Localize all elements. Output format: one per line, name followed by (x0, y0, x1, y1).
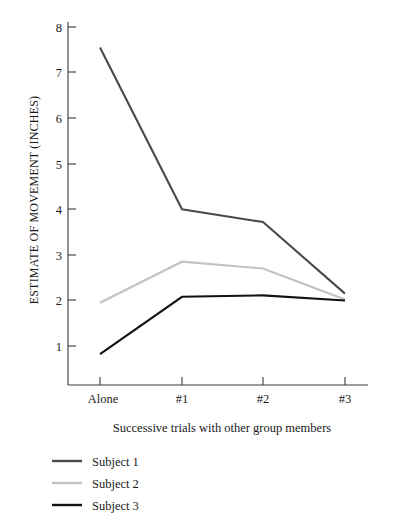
y-tick-label-7: 7 (56, 66, 62, 80)
x-tick-label-3: #3 (339, 392, 352, 406)
series-line-subject-3 (100, 295, 345, 354)
line-chart-figure: 8 7 6 5 4 3 2 1 Alone #1 #2 #3 Successiv… (0, 0, 412, 526)
chart-legend: Subject 1 Subject 2 Subject 3 (52, 455, 139, 513)
y-tick-label-8: 8 (56, 21, 62, 35)
y-tick-label-2: 2 (56, 294, 62, 308)
x-tick-label-1: #1 (176, 392, 189, 406)
legend-label-subject-2: Subject 2 (92, 477, 139, 491)
series-group (100, 48, 345, 355)
chart-canvas: 8 7 6 5 4 3 2 1 Alone #1 #2 #3 Successiv… (0, 0, 412, 526)
series-line-subject-1 (100, 48, 345, 294)
y-tick-label-6: 6 (56, 112, 62, 126)
legend-label-subject-3: Subject 3 (92, 499, 139, 513)
x-axis-title: Successive trials with other group membe… (113, 421, 331, 435)
y-tick-label-1: 1 (56, 340, 62, 354)
x-axis-ticks (100, 377, 345, 385)
x-tick-label-alone: Alone (88, 392, 119, 406)
y-tick-label-4: 4 (56, 203, 63, 217)
legend-label-subject-1: Subject 1 (92, 455, 139, 469)
y-tick-label-3: 3 (56, 249, 62, 263)
x-tick-label-2: #2 (257, 392, 270, 406)
y-axis-title: ESTIMATE OF MOVEMENT (INCHES) (27, 96, 41, 305)
y-axis-ticks (68, 27, 76, 346)
y-tick-label-5: 5 (56, 158, 62, 172)
